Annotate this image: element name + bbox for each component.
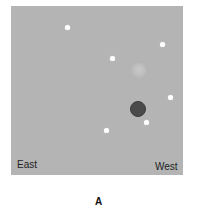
star-dot xyxy=(160,42,165,47)
east-label: East xyxy=(17,159,37,170)
light-celestial-body xyxy=(131,63,146,78)
dark-celestial-body xyxy=(130,101,146,117)
star-dot xyxy=(104,128,109,133)
star-dot xyxy=(65,25,70,30)
star-dot xyxy=(110,56,115,61)
star-dot xyxy=(144,120,149,125)
west-label: West xyxy=(155,161,178,172)
figure-caption: A xyxy=(0,196,197,207)
sky-panel xyxy=(11,6,183,175)
star-dot xyxy=(168,95,173,100)
